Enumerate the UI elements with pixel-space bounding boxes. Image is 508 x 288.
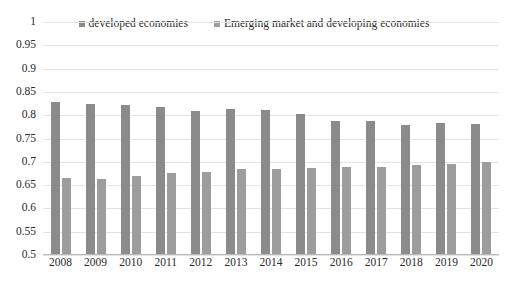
bar-group [394, 22, 429, 255]
bar [62, 178, 71, 255]
bar-group [324, 22, 359, 255]
plot-area [43, 22, 499, 255]
bar [272, 169, 281, 255]
bar [202, 172, 211, 255]
x-axis-tick-label: 2011 [148, 257, 183, 269]
bar [296, 114, 305, 255]
y-axis-tick-label: 0.55 [2, 226, 36, 238]
bar-group [78, 22, 113, 255]
x-axis-ticks: 2008200920102011201220132014201520162017… [43, 257, 499, 269]
bar [471, 124, 480, 255]
bar [97, 179, 106, 255]
bar-group [43, 22, 78, 255]
x-axis-tick-label: 2012 [183, 257, 218, 269]
bar [377, 167, 386, 255]
bar [132, 176, 141, 255]
bar-group [183, 22, 218, 255]
x-axis-tick-label: 2010 [113, 257, 148, 269]
y-axis-tick-label: 0.5 [2, 249, 36, 261]
y-axis-tick-label: 0.6 [2, 203, 36, 215]
bar [156, 107, 165, 255]
bar [237, 169, 246, 255]
x-axis-line [43, 254, 499, 255]
bar [226, 109, 235, 255]
x-axis-tick-label: 2018 [394, 257, 429, 269]
bar-group [148, 22, 183, 255]
x-axis-tick-label: 2009 [78, 257, 113, 269]
x-axis-tick-label: 2016 [324, 257, 359, 269]
bar-group [253, 22, 288, 255]
bar [331, 121, 340, 255]
y-axis-tick-label: 0.7 [2, 156, 36, 168]
bar [191, 111, 200, 255]
bar [307, 168, 316, 255]
bar [401, 125, 410, 255]
x-axis-tick-label: 2019 [429, 257, 464, 269]
y-axis-tick-label: 0.85 [2, 86, 36, 98]
bar-group [464, 22, 499, 255]
bar [86, 104, 95, 255]
bar-group [289, 22, 324, 255]
bar [121, 105, 130, 255]
bar [51, 102, 60, 255]
x-axis-tick-label: 2015 [289, 257, 324, 269]
bar-chart: developed economies Emerging market and … [0, 0, 508, 288]
x-axis-tick-label: 2013 [218, 257, 253, 269]
y-axis-tick-label: 0.65 [2, 179, 36, 191]
y-axis-tick-label: 0.9 [2, 63, 36, 75]
x-axis-tick-label: 2017 [359, 257, 394, 269]
x-axis-tick-label: 2014 [253, 257, 288, 269]
x-axis-tick-label: 2008 [43, 257, 78, 269]
bar [342, 167, 351, 255]
bar-groups [43, 22, 499, 255]
bar [447, 164, 456, 255]
bar [366, 121, 375, 255]
bar-group [429, 22, 464, 255]
bar-group [113, 22, 148, 255]
bar [412, 165, 421, 255]
bar [261, 110, 270, 255]
x-axis-tick-label: 2020 [464, 257, 499, 269]
bar-group [218, 22, 253, 255]
y-axis-tick-label: 1 [2, 16, 36, 28]
y-axis-tick-label: 0.75 [2, 133, 36, 145]
y-axis-tick-label: 0.8 [2, 109, 36, 121]
y-axis-tick-label: 0.95 [2, 40, 36, 52]
bar [482, 162, 491, 255]
bar [436, 123, 445, 255]
bar-group [359, 22, 394, 255]
bar [167, 173, 176, 255]
